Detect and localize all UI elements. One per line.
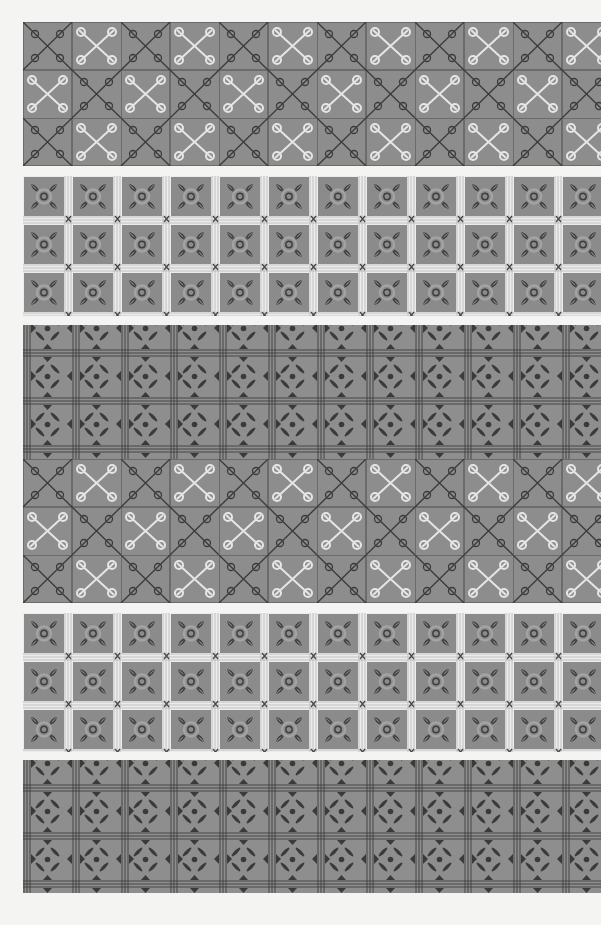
tile-band-x-chain-top	[23, 22, 601, 166]
floral-x-chain-pattern	[23, 325, 601, 603]
star-tile-pattern	[23, 613, 601, 752]
star-tile-pattern	[23, 176, 601, 316]
tile-band-star-upper	[23, 176, 601, 316]
x-chain-pattern	[23, 22, 601, 166]
floral-pattern	[23, 760, 601, 893]
floral-section	[23, 325, 601, 461]
tile-band-star-lower	[23, 613, 601, 752]
x-chain-section	[23, 459, 601, 603]
tile-band-floral-bottom	[23, 760, 601, 893]
tile-band-floral-and-x-chain	[23, 325, 601, 603]
